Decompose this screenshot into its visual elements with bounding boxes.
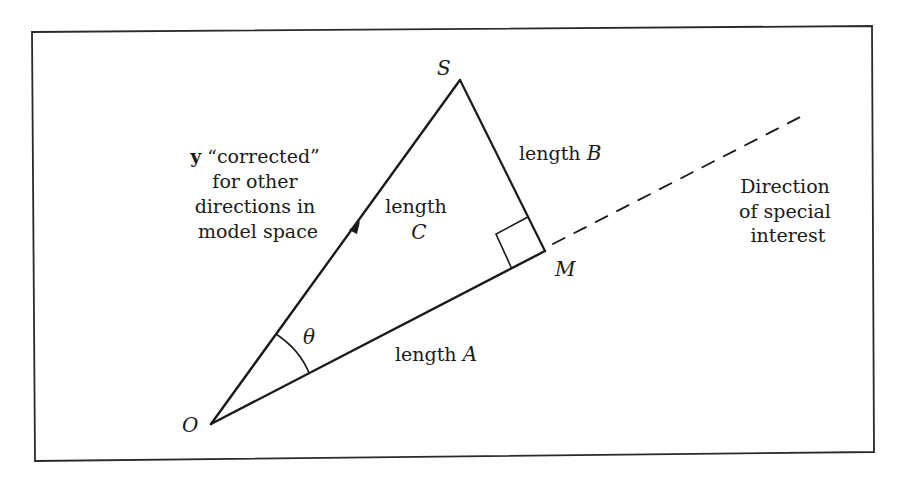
angle-label-theta: θ xyxy=(303,325,315,349)
vertex-label-m: M xyxy=(554,257,576,281)
length-c-var: C xyxy=(411,220,426,244)
length-b-var: B xyxy=(586,141,602,165)
segment-o-s xyxy=(211,80,460,424)
length-a-word: length xyxy=(395,343,457,365)
length-a-var: A xyxy=(461,342,477,366)
y-vector-label: y “corrected” for other directions in mo… xyxy=(189,145,326,242)
direction-label-line2: of special xyxy=(739,200,831,222)
regression-geometry-diagram: S O M θ y “corrected” for other directio… xyxy=(0,0,899,482)
direction-label: Direction of special interest xyxy=(739,175,837,246)
direction-label-line3: interest xyxy=(751,224,826,246)
length-c-label: length C xyxy=(385,195,453,244)
segment-s-m xyxy=(460,80,545,251)
length-c-word: length xyxy=(385,195,447,217)
length-b-label: length B xyxy=(519,141,601,165)
direction-label-line1: Direction xyxy=(740,175,830,197)
length-a-label: length A xyxy=(395,342,477,366)
vertex-label-s: S xyxy=(437,56,451,80)
y-vector-label-line3: directions in xyxy=(195,195,316,217)
y-vector-label-line1: “corrected” xyxy=(201,145,320,167)
length-b-word: length xyxy=(519,142,581,164)
right-angle-marker xyxy=(496,217,528,267)
y-vector-symbol: y xyxy=(189,145,202,167)
vertex-label-o: O xyxy=(182,413,198,437)
y-vector-label-line4: model space xyxy=(198,220,318,242)
segment-o-m xyxy=(211,251,545,424)
y-vector-label-line2: for other xyxy=(212,170,298,192)
